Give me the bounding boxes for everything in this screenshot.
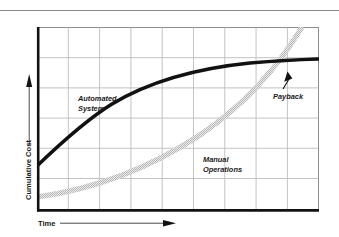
annotation-manual-line1: Manual — [203, 155, 229, 164]
annotation-automated-line1: Automated — [77, 94, 117, 103]
y-axis-label: Cumulative Cost — [24, 140, 33, 200]
x-axis-label: Time — [38, 219, 56, 228]
annotation-manual-line2: Operations — [203, 165, 242, 174]
figure-container: Cumulative Cost Time Automated System Ma… — [0, 0, 339, 237]
annotation-payback: Payback — [273, 92, 304, 101]
cumulative-cost-chart: Cumulative Cost Time Automated System Ma… — [0, 0, 339, 237]
annotation-automated-line2: System — [78, 104, 105, 113]
